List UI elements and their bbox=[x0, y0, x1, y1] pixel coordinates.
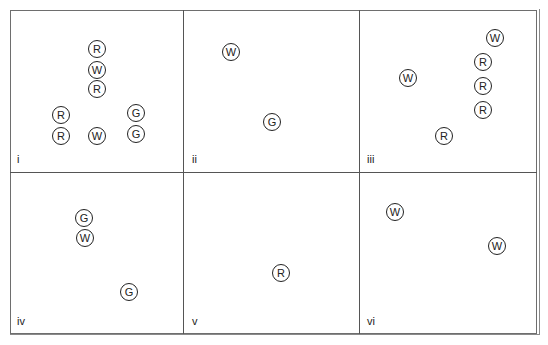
panel-label: v bbox=[192, 316, 198, 327]
circled-token-r: R bbox=[435, 127, 453, 145]
circled-token-g: G bbox=[127, 125, 145, 143]
divider-horizontal bbox=[10, 172, 537, 173]
circled-token-w: W bbox=[222, 43, 240, 61]
circled-token-g: G bbox=[120, 283, 138, 301]
panel-label: vi bbox=[367, 316, 375, 327]
panel-label: i bbox=[17, 154, 19, 165]
circled-token-r: R bbox=[474, 101, 492, 119]
circled-token-r: R bbox=[88, 80, 106, 98]
panel-label: iv bbox=[17, 316, 25, 327]
panel-label: iii bbox=[367, 154, 374, 165]
circled-token-w: W bbox=[386, 203, 404, 221]
circled-token-g: G bbox=[263, 113, 281, 131]
outer-border-bottom bbox=[10, 334, 540, 335]
circled-token-g: G bbox=[75, 209, 93, 227]
circled-token-w: W bbox=[88, 61, 106, 79]
circled-token-w: W bbox=[488, 237, 506, 255]
circled-token-r: R bbox=[474, 77, 492, 95]
circled-token-w: W bbox=[76, 229, 94, 247]
circled-token-r: R bbox=[52, 127, 70, 145]
circled-token-w: W bbox=[88, 127, 106, 145]
outer-border-right-double bbox=[539, 9, 540, 335]
circled-token-w: W bbox=[399, 69, 417, 87]
circled-token-w: W bbox=[486, 29, 504, 47]
circled-token-r: R bbox=[88, 40, 106, 58]
circled-token-r: R bbox=[272, 264, 290, 282]
circled-token-g: G bbox=[127, 104, 145, 122]
panel-label: ii bbox=[192, 154, 197, 165]
circled-token-r: R bbox=[52, 106, 70, 124]
circled-token-r: R bbox=[474, 53, 492, 71]
